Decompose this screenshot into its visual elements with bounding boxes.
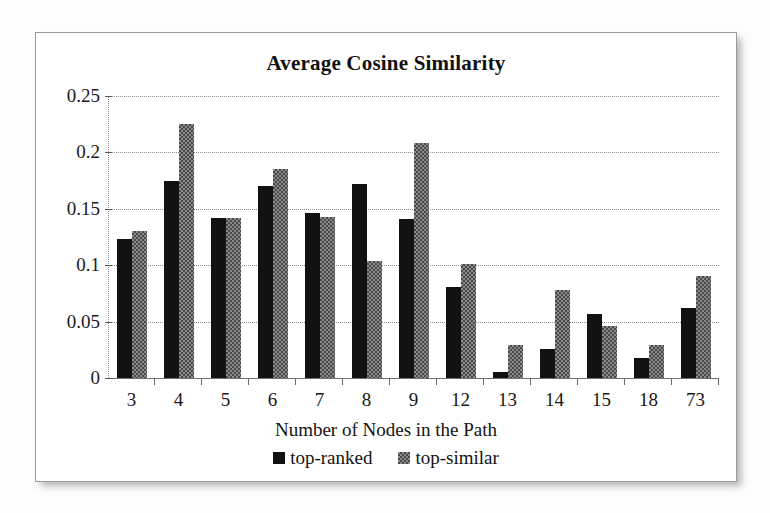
x-tick-mark: [625, 378, 672, 387]
y-tick-label: 0: [44, 367, 100, 389]
legend-label: top-similar: [415, 447, 498, 469]
bar-top-ranked-6: [258, 186, 273, 378]
x-tick-label: 14: [531, 389, 578, 411]
y-tick-label: 0.2: [44, 141, 100, 163]
bar-group: [390, 96, 437, 378]
bar-top-similar-14: [555, 290, 570, 378]
y-tick-mark: [105, 322, 112, 323]
x-tick-label: 18: [625, 389, 672, 411]
x-tick-mark: [484, 378, 531, 387]
bar-top-similar-13: [508, 345, 523, 378]
x-tick-mark: [390, 378, 437, 387]
x-tick-mark: [249, 378, 296, 387]
x-tick-mark: [155, 378, 202, 387]
x-axis-labels: 3456789121314151873: [108, 389, 719, 411]
x-tick-mark: [437, 378, 484, 387]
x-tick-label: 13: [484, 389, 531, 411]
x-tick-mark: [202, 378, 249, 387]
bar-top-similar-3: [132, 231, 147, 378]
bar-top-ranked-4: [164, 181, 179, 378]
x-tick-mark: [672, 378, 719, 387]
bar-top-similar-73: [696, 276, 711, 378]
x-tick-mark: [343, 378, 390, 387]
x-tick-label: 12: [437, 389, 484, 411]
x-axis-ticks: [108, 378, 719, 387]
bar-group: [625, 96, 672, 378]
x-tick-label: 3: [108, 389, 155, 411]
bar-top-similar-6: [273, 169, 288, 378]
bar-groups: [108, 96, 719, 378]
bar-top-ranked-15: [587, 314, 602, 378]
y-tick-label: 0.15: [44, 198, 100, 220]
bar-group: [484, 96, 531, 378]
bar-top-ranked-3: [117, 239, 132, 378]
bar-top-similar-4: [179, 124, 194, 378]
bar-top-similar-12: [461, 264, 476, 378]
legend-label: top-ranked: [290, 447, 372, 469]
legend-item-top-similar: top-similar: [398, 447, 498, 469]
bar-top-ranked-18: [634, 358, 649, 378]
chart-frame: Average Cosine Similarity 00.050.10.150.…: [35, 32, 737, 482]
bar-group: [108, 96, 155, 378]
bar-group: [296, 96, 343, 378]
gray-hatched-square-icon: [398, 452, 410, 464]
chart-title: Average Cosine Similarity: [36, 51, 736, 76]
bar-group: [578, 96, 625, 378]
x-tick-mark: [108, 378, 155, 387]
bar-group: [155, 96, 202, 378]
bar-top-similar-8: [367, 261, 382, 378]
y-tick-label: 0.1: [44, 254, 100, 276]
bar-group: [672, 96, 719, 378]
bar-top-similar-9: [414, 143, 429, 378]
bar-top-similar-18: [649, 345, 664, 378]
bar-group: [249, 96, 296, 378]
legend-item-top-ranked: top-ranked: [273, 447, 372, 469]
bar-top-similar-5: [226, 218, 241, 378]
x-tick-label: 5: [202, 389, 249, 411]
bar-top-ranked-12: [446, 287, 461, 378]
bar-top-ranked-73: [681, 308, 696, 378]
black-square-icon: [273, 452, 285, 464]
y-tick-mark: [105, 209, 112, 210]
y-tick-label: 0.05: [44, 311, 100, 333]
y-tick-label: 0.25: [44, 85, 100, 107]
x-tick-label: 6: [249, 389, 296, 411]
x-tick-label: 9: [390, 389, 437, 411]
x-tick-mark: [296, 378, 343, 387]
x-tick-label: 15: [578, 389, 625, 411]
bar-group: [202, 96, 249, 378]
x-tick-label: 7: [296, 389, 343, 411]
x-tick-label: 4: [155, 389, 202, 411]
x-tick-mark: [578, 378, 625, 387]
bar-top-ranked-8: [352, 184, 367, 378]
x-axis-title: Number of Nodes in the Path: [36, 419, 736, 441]
bar-group: [437, 96, 484, 378]
chart-page: Average Cosine Similarity 00.050.10.150.…: [0, 0, 770, 513]
bar-group: [343, 96, 390, 378]
bar-top-ranked-14: [540, 349, 555, 378]
legend: top-rankedtop-similar: [36, 447, 736, 469]
bar-group: [531, 96, 578, 378]
x-tick-label: 8: [343, 389, 390, 411]
y-tick-mark: [105, 265, 112, 266]
bar-top-similar-15: [602, 326, 617, 378]
bar-top-ranked-9: [399, 219, 414, 378]
y-tick-mark: [105, 96, 112, 97]
bar-top-ranked-7: [305, 213, 320, 378]
y-tick-mark: [105, 152, 112, 153]
x-tick-label: 73: [672, 389, 719, 411]
plot-area: [108, 96, 719, 378]
x-tick-mark: [531, 378, 578, 387]
bar-top-ranked-5: [211, 218, 226, 378]
bar-top-similar-7: [320, 217, 335, 378]
